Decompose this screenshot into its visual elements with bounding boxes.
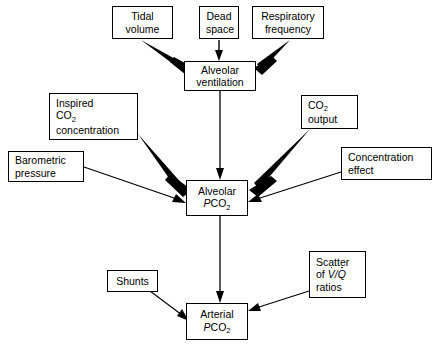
node-label-line: Arterial [193,308,241,321]
node-label-line: concentration [56,124,131,137]
node-label-line: Dead [206,10,232,23]
node-dead-space[interactable]: Dead space [199,6,239,39]
node-scatter-vq-ratios[interactable]: Scatter of V/Q ratios [309,251,366,298]
edge-respiratory-frequency-to-alveolar-ventilation [254,40,290,75]
node-label-line: pressure [15,167,77,180]
edge-alveolar-ventilation-to-alveolar-pco2 [216,91,224,180]
node-label-line: Barometric [15,154,77,167]
node-label-line-vq: of V/Q [316,268,359,281]
node-co2-output[interactable]: CO2 output [301,95,358,129]
node-label-line: ventilation [191,76,249,89]
edge-co2-output-to-alveolar-pco2 [249,129,310,197]
node-label-line: volume [119,23,166,36]
node-arterial-pco2[interactable]: Arterial PCO2 [186,303,248,340]
node-label-line: ratios [316,281,359,294]
node-label-line: space [206,23,232,36]
node-label-line: output [308,113,351,126]
edge-inspired-co2-to-alveolar-pco2 [138,134,192,197]
node-label-line: Scatter [316,256,359,269]
node-inspired-co2-concentration[interactable]: Inspired CO2 concentration [49,93,138,140]
node-shunts[interactable]: Shunts [107,270,158,292]
node-alveolar-pco2[interactable]: Alveolar PCO2 [186,180,248,216]
node-tidal-volume[interactable]: Tidal volume [112,6,173,39]
node-label-line-pco2: PCO2 [193,197,241,212]
node-label-line: effect [348,164,425,177]
edge-shunts-to-arterial-pco2 [150,291,189,321]
node-alveolar-ventilation[interactable]: Alveolar ventilation [184,61,256,91]
node-label-line: Shunts [114,275,151,288]
node-label-line: Respiratory [259,10,317,23]
flowchart-diagram: Tidal volume Dead space Respiratory freq… [0,0,434,348]
edge-dead-space-to-alveolar-ventilation [215,40,223,61]
node-concentration-effect[interactable]: Concentration effect [341,147,432,180]
node-label-line: Tidal [119,10,166,23]
node-label-line: Alveolar [191,64,249,77]
node-label-line: Concentration [348,151,425,164]
node-label-line-co2: CO2 [308,99,351,114]
node-label-line-co2: CO2 [56,109,131,124]
node-label-line: frequency [259,23,317,36]
edge-scatter-vq-to-arterial-pco2 [248,291,309,311]
edge-alveolar-pco2-to-arterial-pco2 [216,216,224,303]
node-respiratory-frequency[interactable]: Respiratory frequency [252,6,324,39]
node-label-line-pco2: PCO2 [193,321,241,336]
node-label-line: Alveolar [193,185,241,198]
node-barometric-pressure[interactable]: Barometric pressure [8,151,84,182]
node-label-line: Inspired [56,97,131,110]
